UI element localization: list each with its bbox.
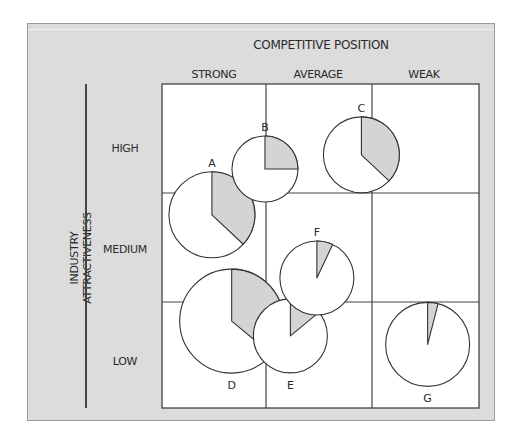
pie-label: B	[261, 121, 269, 134]
pie-label: G	[423, 392, 432, 405]
pie-label: C	[358, 102, 366, 115]
pie-label: D	[227, 379, 235, 392]
pie-label: E	[287, 379, 294, 392]
matrix-chart: ABCDEFG	[0, 0, 519, 443]
pie-label: F	[314, 226, 320, 239]
pie-label: A	[208, 157, 216, 170]
